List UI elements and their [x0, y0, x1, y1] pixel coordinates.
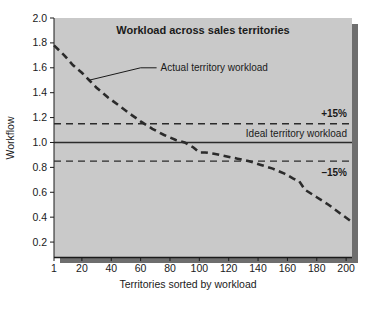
chart-title: Workload across sales territories	[116, 24, 289, 36]
y-tick-label: 1.0	[32, 136, 47, 148]
y-tick-label: 0.8	[32, 161, 47, 173]
x-tick-label: 40	[105, 262, 117, 274]
x-tick-label: 60	[135, 262, 147, 274]
lower-tolerance-label: –15%	[321, 167, 347, 178]
x-tick-label: 160	[279, 262, 297, 274]
x-tick-label: 20	[76, 262, 88, 274]
y-tick-label: 0.2	[32, 236, 47, 248]
x-tick-label: 120	[220, 262, 238, 274]
x-tick-label: 1	[51, 262, 57, 274]
y-tick-label: 1.4	[32, 86, 47, 98]
chart-figure: Workload across sales territories 0.20.4…	[0, 0, 377, 312]
actual-workload-annotation: Actual territory workload	[161, 62, 268, 73]
y-tick-label: 2.0	[32, 12, 47, 24]
x-axis-title: Territories sorted by workload	[119, 278, 256, 290]
x-tick-label: 140	[249, 262, 267, 274]
x-tick-label: 180	[308, 262, 326, 274]
y-axis-title: Workflow	[4, 116, 16, 159]
ideal-workload-label: Ideal territory workload	[246, 128, 347, 139]
y-tick-label: 1.2	[32, 111, 47, 123]
y-tick-label: 1.8	[32, 36, 47, 48]
x-tick-label: 100	[191, 262, 209, 274]
upper-tolerance-label: +15%	[321, 108, 347, 119]
x-tick-label: 200	[337, 262, 355, 274]
y-tick-label: 0.6	[32, 186, 47, 198]
workload-chart-svg: Workload across sales territories 0.20.4…	[0, 0, 377, 312]
x-tick-label: 80	[164, 262, 176, 274]
y-tick-label: 1.6	[32, 61, 47, 73]
y-tick-label: 0.4	[32, 211, 47, 223]
